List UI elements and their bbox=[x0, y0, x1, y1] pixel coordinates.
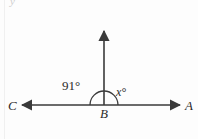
point-label-c: C bbox=[8, 99, 17, 112]
angle-figure bbox=[0, 0, 198, 139]
point-label-a: A bbox=[185, 99, 193, 112]
diagram-canvas: y C B A 91° x° bbox=[0, 0, 198, 139]
point-label-b: B bbox=[100, 107, 108, 120]
angle-label-right: x° bbox=[116, 86, 126, 98]
angle-label-left: 91° bbox=[62, 79, 80, 92]
